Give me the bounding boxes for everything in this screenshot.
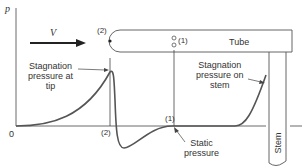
velocity-label: V	[50, 28, 56, 38]
static-annotation-arrowhead-icon	[174, 127, 179, 133]
tip-point-label: (2)	[97, 26, 107, 36]
tube-outline	[109, 30, 292, 52]
tube-label: Tube	[229, 37, 249, 47]
stagnation-tip-line-2: pressure at	[28, 71, 73, 81]
y-axis-label: p	[5, 4, 10, 14]
stagnation-tip-line-1: Stagnation	[28, 61, 73, 71]
tip-annotation-arrow	[78, 69, 106, 70]
static-line-1: Static	[184, 138, 219, 148]
x-mark-point2: (2)	[101, 128, 111, 138]
origin-label: 0	[9, 129, 14, 139]
stagnation-stem-line-2: pressure on	[196, 70, 244, 80]
static-port-upper	[172, 36, 176, 40]
stem-annotation-arrow	[248, 79, 261, 82]
stagnation-stem-annotation: Stagnation pressure on stem	[196, 60, 244, 90]
stagnation-tip-annotation: Stagnation pressure at tip	[28, 61, 73, 91]
static-annotation: Static pressure	[184, 138, 219, 158]
x-mark-point1: (1)	[165, 114, 175, 124]
static-port-label: (1)	[178, 36, 188, 46]
stagnation-stem-line-3: stem	[196, 80, 244, 90]
stem-label: Stem	[273, 131, 283, 155]
tip-point-dot	[108, 39, 111, 42]
static-port-lower	[172, 43, 176, 47]
stagnation-stem-line-1: Stagnation	[196, 60, 244, 70]
arrow-head-icon	[76, 39, 86, 47]
stagnation-tip-line-3: tip	[28, 81, 73, 91]
tip-annotation-arrowhead-icon	[104, 68, 109, 72]
static-line-2: pressure	[184, 148, 219, 158]
